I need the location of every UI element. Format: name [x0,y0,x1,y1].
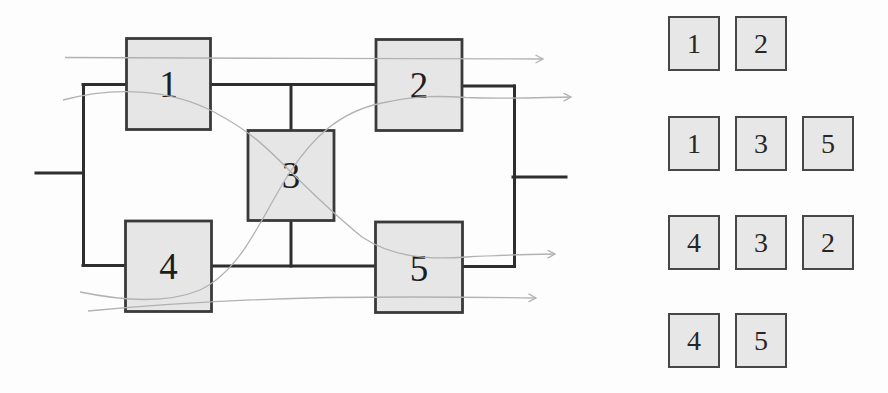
block-4-label: 4 [159,246,178,287]
diagram-block-5: 5 [376,222,463,313]
diagram-block-1: 1 [127,39,211,130]
block-5-label: 5 [410,248,429,289]
block-1-label: 1 [159,64,178,105]
path-set-row-4-3-2: 4 3 2 [668,215,854,270]
path-sets-panel: 1 2 1 3 5 4 3 2 4 5 [668,0,888,393]
figure: 1 2 3 4 5 1 2 1 3 5 [0,0,888,393]
path-set-block: 3 [735,116,787,171]
bridge-network-diagram: 1 2 3 4 5 [0,0,640,393]
path-set-block: 1 [668,116,720,171]
path-set-row-4-5: 4 5 [668,313,787,368]
path-set-block: 5 [735,313,787,368]
diagram-block-2: 2 [376,40,462,131]
path-set-block: 2 [802,215,854,270]
path-set-row-1-2: 1 2 [668,16,787,71]
path-set-block: 4 [668,215,720,270]
path-set-row-1-3-5: 1 3 5 [668,116,854,171]
path-set-block: 2 [735,16,787,71]
path-set-block: 3 [735,215,787,270]
path-set-block: 5 [802,116,854,171]
block-2-label: 2 [410,65,429,106]
path-set-block: 4 [668,313,720,368]
path-set-block: 1 [668,16,720,71]
